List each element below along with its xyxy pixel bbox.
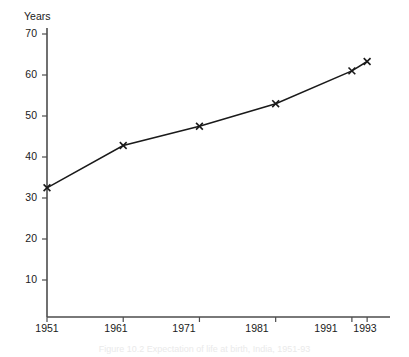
data-line-series-1: [47, 62, 367, 188]
marker-1991: [348, 68, 355, 75]
marker-1993: [364, 58, 371, 65]
line-chart-plot: [0, 0, 409, 357]
axes: [47, 28, 390, 317]
figure-caption: Figure 10.2 Expectation of life at birth…: [0, 344, 409, 355]
figure-container: Years 70 60 50 40 30 20 10 1951 1961 197…: [0, 0, 409, 357]
